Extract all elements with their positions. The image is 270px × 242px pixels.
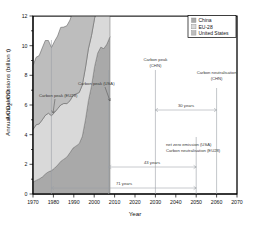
legend-label-china: China bbox=[199, 17, 212, 23]
chart-legend: China EU-28 United States bbox=[188, 16, 236, 38]
span-label-30-years: 30 years bbox=[178, 103, 194, 108]
legend-swatch-united-states bbox=[192, 31, 197, 35]
y-tick-6: 6 bbox=[25, 102, 28, 108]
legend-swatch-eu28 bbox=[192, 24, 197, 29]
x-tick-1990: 1990 bbox=[68, 199, 80, 205]
y-tick-2: 2 bbox=[25, 161, 28, 167]
x-tick-2020: 2020 bbox=[129, 199, 141, 205]
x-tick-2030: 2030 bbox=[150, 199, 162, 205]
x-tick-1980: 1980 bbox=[48, 199, 60, 205]
y-tick-4: 4 bbox=[25, 132, 28, 138]
legend-swatch-china bbox=[192, 18, 197, 23]
y-tick-10: 10 bbox=[22, 43, 28, 49]
x-axis-label: Year bbox=[129, 210, 142, 217]
x-tick-2070: 2070 bbox=[231, 199, 243, 205]
x-ticks bbox=[33, 194, 237, 198]
annotation-carbon-neutral-chn-line2: (CHN) bbox=[211, 76, 223, 81]
x-tick-2010: 2010 bbox=[109, 199, 121, 205]
y-tick-12: 12 bbox=[22, 13, 28, 19]
span-label-71-years: 71 years bbox=[116, 181, 132, 186]
x-tick-1970: 1970 bbox=[27, 199, 39, 205]
y-tick-0: 0 bbox=[25, 191, 28, 197]
span-label-43-years: 43 years bbox=[144, 160, 160, 165]
co2-emissions-area-chart: 0 2 4 6 8 10 12 Annual CO Annual CO₂ emi… bbox=[0, 0, 270, 242]
annotation-carbon-peak-usa: Carbon peak (USA) bbox=[78, 81, 115, 86]
x-tick-2040: 2040 bbox=[170, 199, 182, 205]
annotation-carbon-peak-eu28: Carbon peak (EU28) bbox=[39, 93, 78, 98]
x-tick-2050: 2050 bbox=[190, 199, 202, 205]
y-ticks bbox=[30, 16, 34, 194]
x-tick-2060: 2060 bbox=[211, 199, 223, 205]
x-tick-2000: 2000 bbox=[88, 199, 100, 205]
annotation-carbon-neutral-chn-line1: Carbon neutralisation bbox=[197, 70, 237, 75]
legend-label-united-states: United States bbox=[199, 30, 230, 36]
y-axis-label-full: Annual CO2 emissions (billion t) bbox=[4, 49, 13, 136]
annotation-carbon-neutral-eu28: Carbon neutralisation (EU28) bbox=[166, 148, 221, 153]
top-mask bbox=[33, 0, 237, 16]
annotation-carbon-peak-chn-line1: Carbon peak bbox=[143, 57, 168, 62]
annotation-net-zero-usa: net zero emission (USA) bbox=[166, 142, 212, 147]
legend-label-eu28: EU-28 bbox=[199, 24, 213, 30]
chart-figure: 0 2 4 6 8 10 12 Annual CO Annual CO₂ emi… bbox=[0, 0, 270, 242]
annotation-carbon-peak-chn-line2: (CHN) bbox=[149, 63, 161, 68]
y-tick-8: 8 bbox=[25, 72, 28, 78]
